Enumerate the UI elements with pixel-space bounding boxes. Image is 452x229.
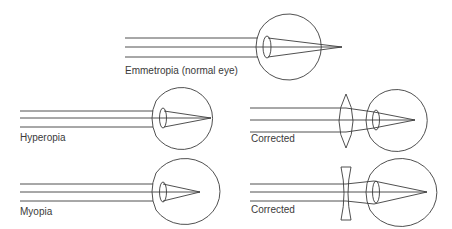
cornea-icon <box>152 101 156 136</box>
cornea-icon <box>152 173 156 210</box>
light-rays <box>20 111 211 127</box>
label-hyperopia: Hyperopia <box>20 133 66 143</box>
label-myopia-corrected: Corrected <box>251 205 295 215</box>
eyeball-icon <box>156 159 220 225</box>
eyeball-icon <box>156 87 213 149</box>
label-hyperopia-corrected: Corrected <box>251 134 295 144</box>
eyeball-icon <box>370 159 437 227</box>
cornea-icon <box>366 175 370 210</box>
light-rays <box>20 184 200 201</box>
label-emmetropia: Emmetropia (normal eye) <box>125 66 238 76</box>
light-rays <box>250 108 415 132</box>
label-myopia: Myopia <box>20 207 52 217</box>
concave-lens-icon <box>341 167 351 220</box>
light-rays <box>125 38 342 57</box>
light-rays <box>250 181 427 204</box>
eye-refraction-diagram <box>0 0 452 229</box>
panel-myopia-corrected <box>250 159 437 227</box>
eyeball-icon <box>370 90 427 152</box>
cornea-icon <box>366 104 370 137</box>
convex-lens-icon <box>339 94 353 148</box>
